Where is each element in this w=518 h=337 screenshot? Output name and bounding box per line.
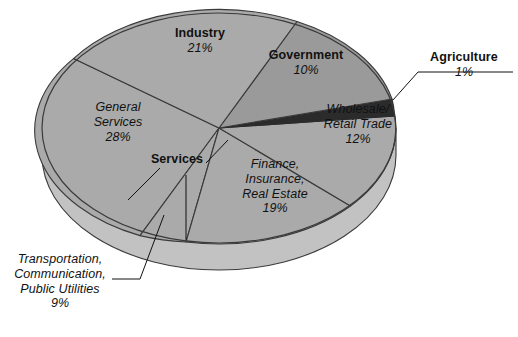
agriculture-leader-line (393, 72, 513, 100)
pie-chart-graphic (0, 0, 518, 337)
pie-chart-figure: Industry 21% Government 10% Agriculture … (0, 0, 518, 337)
